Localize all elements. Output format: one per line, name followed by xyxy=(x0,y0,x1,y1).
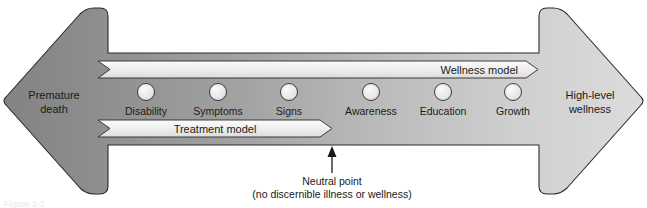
premature-death-line2: death xyxy=(40,103,68,115)
high-level-wellness-line1: High-level xyxy=(566,89,615,101)
premature-death-line1: Premature xyxy=(28,89,79,101)
node-label-growth: Growth xyxy=(496,105,530,117)
node-label-education: Education xyxy=(420,105,467,117)
treatment-model-label: Treatment model xyxy=(174,123,257,135)
node-circle-disability xyxy=(138,84,155,101)
continuum-diagram: Premature death High-level wellness Well… xyxy=(0,0,647,208)
neutral-point-callout: Neutral point (no discernible illness or… xyxy=(252,146,411,200)
illness-wellness-continuum-figure: Premature death High-level wellness Well… xyxy=(0,0,647,208)
neutral-point-arrow-head xyxy=(328,146,337,157)
node-label-symptoms: Symptoms xyxy=(193,105,243,117)
node-circle-education xyxy=(435,84,452,101)
main-arrow-shape xyxy=(4,8,643,194)
wellness-model-label: Wellness model xyxy=(441,64,518,76)
node-circle-growth xyxy=(505,84,522,101)
node-label-signs: Signs xyxy=(276,105,302,117)
figure-caption: Figure 1-1 xyxy=(4,199,45,208)
neutral-point-line2: (no discernible illness or wellness) xyxy=(252,188,411,200)
node-circle-awareness xyxy=(363,84,380,101)
node-circle-symptoms xyxy=(210,84,227,101)
node-label-awareness: Awareness xyxy=(345,105,397,117)
wellness-model-band: Wellness model xyxy=(98,61,538,78)
treatment-model-band: Treatment model xyxy=(98,120,332,137)
node-label-disability: Disability xyxy=(125,105,168,117)
node-circle-signs xyxy=(281,84,298,101)
high-level-wellness-line2: wellness xyxy=(568,103,612,115)
neutral-point-line1: Neutral point xyxy=(302,175,362,187)
